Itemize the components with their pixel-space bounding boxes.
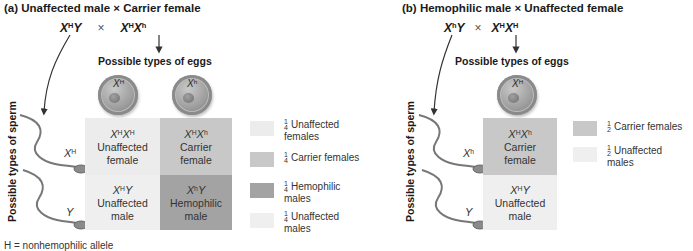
legend-item-hemophilic-males: 14Hemophilicmales [250, 181, 340, 205]
sperm-icons [15, 110, 85, 240]
legend-item-unaffected-males: 12Unaffectedmales [573, 145, 662, 169]
sperm-icons [414, 110, 484, 240]
panel-b-eggs-label: Possible types of eggs [455, 55, 569, 67]
legend-item-unaffected-males: 14Unaffectedmales [250, 211, 339, 235]
egg-icon: XH [497, 75, 537, 115]
legend-swatch [250, 213, 274, 228]
sperm-label-y: Y [66, 206, 73, 218]
sperm-arrow-icon [434, 35, 452, 112]
punnett-cell-carrier-female: XHXh Carrier female [160, 118, 232, 175]
legend-swatch [250, 183, 274, 198]
sperm-arrow-icon [44, 35, 70, 112]
sperm-label-xh: Xh [463, 147, 474, 159]
legend-swatch [573, 147, 597, 162]
egg-icon: Xh [172, 75, 212, 115]
footer-note: H = nonhemophilic allele [4, 240, 113, 251]
sperm-label-y: Y [465, 206, 472, 218]
sperm-icon [20, 115, 80, 168]
panel-a-eggs-label: Possible types of eggs [98, 55, 212, 67]
sperm-icon [419, 115, 479, 168]
legend-swatch [250, 152, 274, 167]
legend-item-carrier-females: 14Carrier females [250, 150, 359, 167]
punnett-cell-unaffected-male: XHY Unaffected male [483, 175, 557, 230]
egg-icon: XH [98, 75, 138, 115]
legend-item-unaffected-females: 14Unaffectedfemales [250, 119, 339, 143]
sperm-label-xh: XH [64, 147, 76, 159]
legend-swatch [250, 121, 274, 136]
punnett-cell-carrier-female: XHXh Carrier female [483, 118, 557, 175]
punnett-cell-unaffected-male: XHY Unaffected male [85, 175, 160, 230]
punnett-cell-hemophilic-male: XhY Hemophilic male [160, 175, 232, 230]
legend-item-carrier-females: 12Carrier females [573, 119, 682, 136]
legend-swatch [573, 121, 597, 136]
punnett-cell-unaffected-female: XHXH Unaffected female [85, 118, 160, 175]
